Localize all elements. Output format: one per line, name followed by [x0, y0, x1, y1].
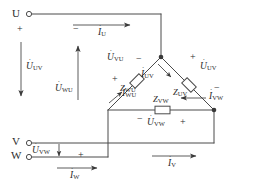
sign-vu-minus: − — [136, 54, 142, 64]
voltage-sub-uuv-left: UV — [33, 64, 43, 71]
current-arrow-iuv — [158, 64, 171, 77]
impedance-sub-zvw: VW — [158, 97, 169, 104]
voltage-sub-uvw-left: VW — [39, 148, 50, 155]
dot-accent-uvu: ˙ — [109, 50, 112, 58]
circuit-diagram: U V W + − − + + − − + + ˙UUV ˙UWU ˙UVU ˙… — [0, 0, 256, 183]
dot-accent-iuv: ˙ — [141, 67, 144, 75]
impedance-sub-zwu: WU — [125, 86, 136, 93]
voltage-label-uwu: ˙UWU — [55, 84, 73, 94]
dot-accent-ivw: ˙ — [209, 89, 212, 97]
impedance-label-zvw: ZVW — [153, 95, 169, 104]
voltage-sub-uv-branch: UV — [207, 64, 217, 71]
sign-vu-plus: + — [112, 74, 118, 84]
dot-accent-iv: ˙ — [168, 156, 171, 164]
impedance-label-zuv: ZUV — [173, 88, 187, 97]
voltage-label-uvw-branch: ˙UVW — [147, 118, 165, 128]
sign-u-plus: + — [17, 24, 23, 34]
sign-uv-plus: + — [190, 52, 196, 62]
terminal-label-u: U — [12, 8, 20, 19]
voltage-label-uvu: ˙UVU — [107, 53, 123, 63]
current-label-iv: ˙IV — [168, 159, 176, 169]
voltage-label-uvw-left: ˙UVW — [32, 146, 50, 156]
dot-accent-uwu: ˙ — [57, 81, 60, 89]
impedance-sub-zuv: UV — [178, 90, 188, 97]
dot-accent-iu: ˙ — [98, 25, 101, 33]
sign-vw-plus: + — [180, 117, 186, 127]
voltage-label-uv-branch: ˙UUV — [200, 62, 216, 72]
dot-accent-iw: ˙ — [70, 168, 73, 176]
terminal-node-v — [26, 140, 31, 145]
terminal-label-v: V — [12, 136, 20, 147]
impedance-label-zwu: ZWU — [120, 84, 136, 93]
current-sub-iuv: UV — [144, 72, 154, 79]
sign-vw-left-plus: + — [78, 150, 84, 160]
voltage-sub-uvw-branch: VW — [154, 120, 165, 127]
current-label-ivw: ˙IVW — [209, 92, 223, 102]
voltage-sub-uvu: VU — [114, 55, 124, 62]
dot-accent-uv-branch: ˙ — [202, 59, 205, 67]
current-sub-iv: V — [171, 161, 176, 168]
current-label-iuv: ˙IUV — [141, 70, 154, 80]
dot-accent-uuv-left: ˙ — [28, 59, 31, 67]
dot-accent-uvw-left: ˙ — [34, 143, 37, 151]
impedance-zvw-box — [155, 106, 170, 114]
terminal-node-u — [26, 11, 31, 16]
terminal-node-w — [26, 154, 31, 159]
junction-apex — [159, 55, 164, 60]
terminal-label-w: W — [11, 150, 22, 161]
current-label-iu: ˙IU — [98, 28, 106, 38]
dot-accent-uvw-branch: ˙ — [149, 115, 152, 123]
current-sub-iw: W — [73, 173, 79, 180]
voltage-sub-uwu: WU — [62, 86, 73, 93]
sign-u-minus: − — [73, 24, 79, 34]
junction-lower-right — [212, 108, 217, 113]
current-label-iw: ˙IW — [70, 171, 79, 181]
current-sub-iu: U — [101, 30, 106, 37]
sign-vw-minus: − — [137, 114, 143, 124]
current-sub-ivw: VW — [212, 94, 223, 101]
voltage-label-uuv-left: ˙UUV — [26, 62, 42, 72]
